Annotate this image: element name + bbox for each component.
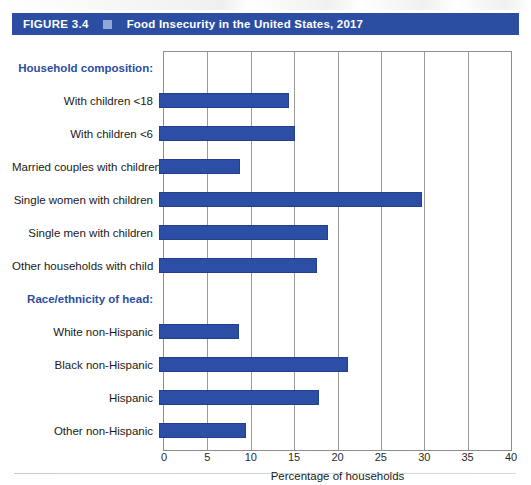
- square-marker-icon: [103, 20, 112, 29]
- bar: [159, 93, 289, 108]
- group-label: Race/ethnicity of head:: [12, 293, 158, 305]
- bar-cell: [158, 348, 519, 381]
- x-tick-label-10: 10: [245, 451, 257, 463]
- bar: [159, 357, 348, 372]
- x-tick-label-15: 15: [288, 451, 300, 463]
- category-label: White non-Hispanic: [12, 326, 158, 338]
- bar-cell: [158, 216, 519, 249]
- chart-bar-row: Black non-Hispanic: [12, 348, 519, 381]
- bar-cell: [158, 381, 519, 414]
- group-label: Household composition:: [12, 62, 158, 74]
- x-tick-label-0: 0: [161, 451, 167, 463]
- category-label: Single women with children: [12, 194, 158, 206]
- chart-group-row: Household composition:: [12, 51, 519, 84]
- scan-artifact-top: [0, 0, 531, 10]
- category-label: With children <18: [12, 95, 158, 107]
- chart-bar-row: Other non-Hispanic: [12, 414, 519, 447]
- category-label: Married couples with children: [12, 161, 158, 173]
- bar-cell: [158, 315, 519, 348]
- category-label: Other households with child: [12, 260, 158, 272]
- x-tick-label-25: 25: [375, 451, 387, 463]
- x-tick-label-30: 30: [418, 451, 430, 463]
- bar: [159, 159, 240, 174]
- chart-bar-row: With children <18: [12, 84, 519, 117]
- bar-cell: [158, 414, 519, 447]
- bar: [159, 324, 239, 339]
- bar-cell: [158, 282, 519, 315]
- category-label: Other non-Hispanic: [12, 425, 158, 437]
- chart-bar-row: With children <6: [12, 117, 519, 150]
- bar-cell: [158, 150, 519, 183]
- figure-title-bar: FIGURE 3.4 Food Insecurity in the United…: [12, 13, 519, 35]
- category-label: Single men with children: [12, 227, 158, 239]
- bar: [159, 258, 317, 273]
- bar-cell: [158, 51, 519, 84]
- x-tick-label-20: 20: [331, 451, 343, 463]
- category-label: With children <6: [12, 128, 158, 140]
- bar-cell: [158, 249, 519, 282]
- bar: [159, 126, 295, 141]
- bar: [159, 225, 328, 240]
- figure-number: FIGURE 3.4: [23, 18, 89, 30]
- x-tick-label-5: 5: [204, 451, 210, 463]
- bar-cell: [158, 117, 519, 150]
- page-bottom-rule: [14, 473, 516, 474]
- chart-bar-row: Married couples with children: [12, 150, 519, 183]
- figure-title: Food Insecurity in the United States, 20…: [127, 18, 364, 30]
- figure-container: FIGURE 3.4 Food Insecurity in the United…: [12, 13, 519, 463]
- bar: [159, 423, 246, 438]
- chart-bar-row: Single men with children: [12, 216, 519, 249]
- x-tick-label-35: 35: [462, 451, 474, 463]
- chart-bar-row: Hispanic: [12, 381, 519, 414]
- x-tick-label-40: 40: [505, 451, 517, 463]
- x-axis: Percentage of households 051015202530354…: [163, 451, 512, 485]
- chart-bar-row: Other households with child: [12, 249, 519, 282]
- x-axis-title: Percentage of households: [163, 470, 512, 482]
- chart-bar-row: White non-Hispanic: [12, 315, 519, 348]
- chart-area: Household composition:With children <18W…: [12, 35, 519, 463]
- category-label: Black non-Hispanic: [12, 359, 158, 371]
- bar-cell: [158, 183, 519, 216]
- chart-group-row: Race/ethnicity of head:: [12, 282, 519, 315]
- category-label: Hispanic: [12, 392, 158, 404]
- chart-bar-row: Single women with children: [12, 183, 519, 216]
- bar-cell: [158, 84, 519, 117]
- bar: [159, 390, 319, 405]
- chart-rows: Household composition:With children <18W…: [12, 51, 519, 449]
- bar: [159, 192, 422, 207]
